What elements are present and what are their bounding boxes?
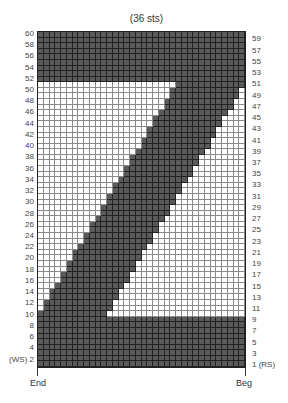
row-label: 21 (252, 249, 261, 257)
row-label: 43 (252, 125, 261, 133)
row-label: 4 (30, 344, 34, 352)
row-label: 39 (252, 148, 261, 156)
chart-title: (36 sts) (0, 13, 288, 24)
row-label: 34 (25, 176, 34, 184)
row-label: 42 (25, 131, 34, 139)
row-label: (WS) 2 (9, 356, 34, 364)
beg-tick (245, 368, 246, 376)
row-label: 44 (25, 120, 34, 128)
row-label: 28 (25, 210, 34, 218)
row-label: 1 (RS) (252, 361, 275, 369)
row-label: 55 (252, 58, 261, 66)
row-label: 8 (30, 322, 34, 330)
row-label: 27 (252, 215, 261, 223)
row-label: 37 (252, 159, 261, 167)
row-label: 50 (25, 86, 34, 94)
row-label: 23 (252, 238, 261, 246)
row-label: 31 (252, 193, 261, 201)
row-label: 46 (25, 108, 34, 116)
row-label: 24 (25, 232, 34, 240)
row-label: 33 (252, 181, 261, 189)
row-label: 29 (252, 204, 261, 212)
row-label: 11 (252, 305, 260, 313)
row-label: 54 (25, 64, 34, 72)
end-label: End (30, 378, 46, 388)
row-label: 19 (252, 260, 261, 268)
row-label: 14 (25, 288, 34, 296)
row-label: 25 (252, 226, 261, 234)
row-label: 38 (25, 153, 34, 161)
row-label: 13 (252, 294, 261, 302)
row-label: 15 (252, 283, 261, 291)
row-label: 45 (252, 114, 261, 122)
row-label: 58 (25, 41, 34, 49)
row-label: 49 (252, 92, 261, 100)
row-label: 9 (252, 316, 256, 324)
row-label: 5 (252, 339, 256, 347)
row-label: 10 (25, 311, 34, 319)
row-label: 59 (252, 35, 261, 43)
row-label: 48 (25, 97, 34, 105)
row-label: 56 (25, 52, 34, 60)
row-label: 3 (252, 350, 256, 358)
row-label: 60 (25, 30, 34, 38)
row-label: 18 (25, 266, 34, 274)
row-label: 40 (25, 142, 34, 150)
row-label: 51 (252, 80, 261, 88)
row-label: 52 (25, 75, 34, 83)
row-label: 7 (252, 327, 256, 335)
beg-label: Beg (236, 378, 252, 388)
row-label: 57 (252, 47, 261, 55)
chart-cell (239, 361, 245, 367)
row-label: 41 (252, 137, 261, 145)
row-label: 32 (25, 187, 34, 195)
knitting-chart-grid (37, 31, 246, 368)
row-label: 17 (252, 271, 261, 279)
row-label: 30 (25, 198, 34, 206)
row-label: 6 (30, 333, 34, 341)
row-label: 12 (25, 299, 34, 307)
row-label: 53 (252, 69, 261, 77)
row-label: 26 (25, 221, 34, 229)
row-label: 36 (25, 165, 34, 173)
end-tick (37, 368, 38, 376)
row-label: 16 (25, 277, 34, 285)
row-label: 20 (25, 254, 34, 262)
row-label: 35 (252, 170, 261, 178)
row-label: 22 (25, 243, 34, 251)
row-label: 47 (252, 103, 261, 111)
